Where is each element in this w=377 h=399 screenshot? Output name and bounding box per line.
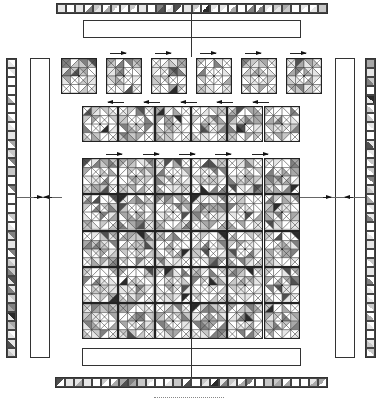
middle-row-tile: [191, 106, 227, 142]
main-grid-tile: [264, 267, 300, 303]
strip-cell: [273, 4, 282, 13]
strip-cell: [366, 86, 375, 95]
main-grid-tile: [155, 158, 191, 194]
arrow-right-icon: [252, 154, 268, 155]
strip-cell: [75, 4, 84, 13]
strip-cell: [366, 194, 375, 203]
strip-cell: [7, 222, 16, 231]
middle-row-tile: [82, 106, 118, 142]
arrow-right-icon: [34, 197, 42, 198]
main-grid-tile: [227, 303, 263, 339]
strip-cell: [246, 4, 255, 13]
strip-cell: [300, 378, 309, 387]
strip-cell: [129, 4, 138, 13]
main-grid-tile: [118, 158, 154, 194]
strip-cell: [7, 285, 16, 294]
strip-cell: [7, 276, 16, 285]
middle-row-tile: [227, 106, 263, 142]
strip-cell: [7, 59, 16, 68]
arrow-right-icon: [323, 197, 331, 198]
strip-cell: [366, 321, 375, 330]
strip-cell: [101, 378, 110, 387]
main-grid-tile: [227, 231, 263, 267]
strip-cell: [255, 378, 264, 387]
strip-cell: [366, 167, 375, 176]
strip-cell: [219, 378, 228, 387]
strip-cell: [128, 378, 137, 387]
right-box: [335, 58, 355, 358]
strip-cell: [309, 4, 318, 13]
middle-row-tile: [118, 106, 154, 142]
strip-cell: [7, 294, 16, 303]
top-row-tile: [286, 58, 322, 94]
strip-cell: [83, 378, 92, 387]
arrow-right-icon: [179, 154, 195, 155]
strip-cell: [7, 303, 16, 312]
strip-cell: [7, 204, 16, 213]
strip-cell: [173, 378, 182, 387]
strip-cell: [56, 378, 65, 387]
main-grid-tile: [191, 158, 227, 194]
strip-cell: [366, 113, 375, 122]
main-grid-tile: [155, 267, 191, 303]
strip-cell: [7, 339, 16, 348]
strip-cell: [366, 204, 375, 213]
strip-cell: [366, 176, 375, 185]
strip-cell: [366, 68, 375, 77]
strip-cell: [102, 4, 111, 13]
top-row-tile: [151, 58, 187, 94]
strip-cell: [366, 122, 375, 131]
strip-cell: [255, 4, 264, 13]
strip-cell: [228, 4, 237, 13]
strip-cell: [7, 176, 16, 185]
strip-cell: [57, 4, 66, 13]
strip-cell: [7, 249, 16, 258]
strip-cell: [84, 4, 93, 13]
main-grid-tile: [264, 194, 300, 230]
arrow-right-icon: [290, 53, 306, 54]
bottom-strip: [55, 377, 328, 388]
strip-cell: [7, 194, 16, 203]
strip-cell: [300, 4, 309, 13]
strip-cell: [318, 378, 327, 387]
strip-cell: [174, 4, 183, 13]
strip-cell: [7, 68, 16, 77]
arrow-right-icon: [155, 53, 171, 54]
strip-cell: [282, 378, 291, 387]
strip-cell: [147, 4, 156, 13]
strip-cell: [7, 104, 16, 113]
strip-cell: [65, 378, 74, 387]
top-row-tile: [196, 58, 232, 94]
strip-cell: [366, 303, 375, 312]
right-strip: [365, 58, 376, 358]
strip-cell: [7, 213, 16, 222]
main-grid-tile: [191, 267, 227, 303]
strip-cell: [111, 4, 120, 13]
strip-cell: [165, 4, 174, 13]
main-grid-tile: [82, 158, 118, 194]
strip-cell: [146, 378, 155, 387]
strip-cell: [366, 77, 375, 86]
strip-cell: [291, 378, 300, 387]
strip-cell: [164, 378, 173, 387]
main-grid-tile: [264, 158, 300, 194]
main-grid-tile: [118, 303, 154, 339]
main-grid-tile: [155, 303, 191, 339]
strip-cell: [291, 4, 300, 13]
strip-cell: [366, 267, 375, 276]
middle-row-tile: [264, 106, 300, 142]
arrow-right-icon: [215, 154, 231, 155]
strip-cell: [7, 231, 16, 240]
strip-cell: [366, 158, 375, 167]
strip-cell: [366, 131, 375, 140]
strip-cell: [92, 378, 101, 387]
strip-cell: [309, 378, 318, 387]
strip-cell: [366, 104, 375, 113]
strip-cell: [7, 348, 16, 357]
strip-cell: [7, 140, 16, 149]
strip-cell: [138, 4, 147, 13]
strip-cell: [246, 378, 255, 387]
strip-cell: [7, 131, 16, 140]
strip-cell: [7, 113, 16, 122]
strip-cell: [7, 240, 16, 249]
